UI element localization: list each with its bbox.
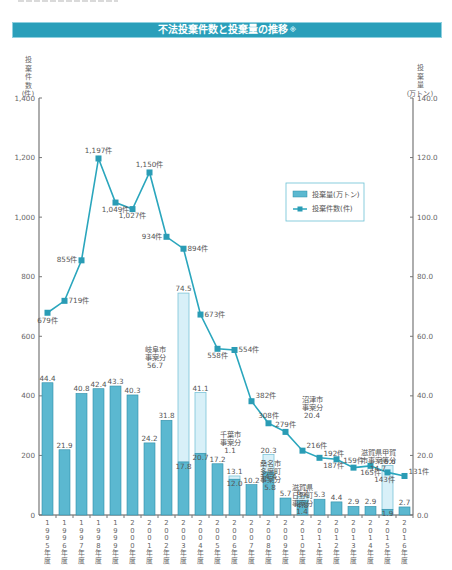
annotation-text: 5.8 (264, 483, 276, 492)
x-category-label: 度 (180, 556, 187, 565)
annotation-text: 56.7 (147, 361, 163, 370)
right-tick-label: 40.0 (417, 391, 433, 400)
bar-segment (399, 507, 410, 515)
x-category-label: 度 (316, 556, 323, 565)
bar-segment (280, 498, 291, 515)
bar-value-label: 2.7 (399, 498, 410, 507)
bar-value-label: 10.2 (243, 476, 259, 485)
bar-value-label: 5.3 (314, 490, 325, 499)
left-tick-label: 800 (21, 272, 35, 281)
right-tick-label: 20.0 (417, 451, 433, 460)
x-category-label: 度 (146, 556, 153, 565)
bar-segment (76, 393, 87, 515)
bar-value-label: 20.3 (260, 446, 276, 455)
left-tick-label: 1,200 (14, 153, 35, 162)
bar-segment (348, 506, 359, 515)
x-category-label: 度 (95, 556, 102, 565)
right-tick-label: 120.0 (417, 153, 438, 162)
right-axis-title: 棄 (417, 72, 424, 81)
cases-value-label: 679件 (37, 316, 58, 325)
cases-marker (232, 347, 238, 353)
chart-canvas: 02004006008001,0001,2001,4000.020.040.06… (0, 0, 452, 570)
cases-marker (147, 169, 153, 175)
cases-value-label: 934件 (142, 232, 163, 241)
bar-extra-segment (178, 293, 189, 462)
bar-base-value-label: 20.7 (192, 453, 208, 462)
bar-value-label: 2.9 (365, 497, 377, 506)
right-tick-label: 80.0 (417, 272, 433, 281)
bar-segment (59, 450, 70, 515)
x-category-label: 度 (214, 556, 221, 565)
cases-marker (402, 473, 408, 479)
bar-value-label: 40.8 (73, 384, 89, 393)
bar-value-label: 17.2 (209, 455, 225, 464)
left-tick-label: 1,000 (14, 213, 35, 222)
left-tick-label: 0 (30, 511, 35, 520)
cases-marker (96, 155, 102, 161)
left-axis-title: 投 (25, 55, 32, 64)
bar-value-label: 24.2 (141, 434, 157, 443)
x-category-label: 度 (282, 556, 289, 565)
cases-value-label: 1,027件 (119, 211, 147, 220)
bar-value-label: 21.9 (56, 441, 72, 450)
bar-extra-segment (195, 393, 206, 454)
x-category-label: 度 (248, 556, 255, 565)
annotation-text: 20.4 (304, 411, 320, 420)
bar-value-label: 41.1 (192, 384, 208, 393)
left-tick-label: 600 (21, 332, 35, 341)
right-axis-title: (万トン) (407, 90, 434, 98)
legend-marker-swatch (298, 207, 303, 212)
left-axis-title: 棄 (25, 64, 32, 73)
bar-segment (246, 485, 257, 515)
x-category-label: 度 (384, 556, 391, 565)
cases-value-label: 673件 (205, 310, 226, 319)
left-axis-title: (件) (22, 89, 35, 98)
x-category-label: 度 (231, 556, 238, 565)
cases-value-label: 1,150件 (136, 160, 164, 169)
annotation-text: 1.1 (224, 446, 235, 455)
right-tick-label: 60.0 (417, 332, 433, 341)
bar-segment (314, 499, 325, 515)
legend-bar-swatch (293, 191, 307, 197)
x-category-label: 度 (78, 556, 85, 565)
bar-segment (365, 506, 376, 515)
bar-value-label: 31.8 (158, 411, 174, 420)
x-category-label: 度 (129, 556, 136, 565)
cases-value-label: 143件 (374, 475, 395, 484)
bar-value-label: 2.9 (348, 497, 360, 506)
x-category-label: 度 (401, 556, 408, 565)
x-category-label: 度 (350, 556, 357, 565)
cases-value-label: 894件 (188, 244, 209, 253)
annotation-text: 1.4 (296, 507, 308, 516)
bar-segment (331, 502, 342, 515)
bar-value-label: 74.5 (175, 284, 191, 293)
bar-value-label: 13.1 (226, 467, 242, 476)
annotation-text: 14.7 (370, 464, 386, 473)
legend-line-label: 投棄件数(件) (312, 204, 353, 213)
cases-marker (164, 234, 170, 240)
cases-marker (266, 420, 272, 426)
cases-value-label: 131件 (409, 467, 430, 476)
cases-marker (249, 398, 255, 404)
bar-value-label: 4.4 (331, 493, 343, 502)
x-category-label: 度 (61, 556, 68, 565)
cases-marker (62, 298, 68, 304)
cases-marker (283, 429, 289, 435)
bar-base-value-label: 12.0 (226, 479, 242, 488)
cases-marker (317, 455, 323, 461)
bar-segment (42, 383, 53, 515)
legend-box (286, 183, 364, 221)
x-category-label: 度 (333, 556, 340, 565)
bar-base-value-label: 17.8 (175, 462, 191, 471)
cases-value-label: 855件 (57, 255, 78, 264)
cases-marker (351, 465, 357, 471)
bar-segment (144, 443, 155, 515)
cases-value-label: 558件 (207, 351, 228, 360)
legend-bar-label: 投棄量(万トン) (312, 190, 360, 199)
bar-value-label: 43.3 (107, 377, 123, 386)
left-tick-label: 400 (21, 391, 35, 400)
cases-value-label: 382件 (256, 391, 277, 400)
x-category-label: 度 (44, 556, 51, 565)
cases-value-label: 1,197件 (85, 146, 113, 155)
cases-marker (79, 257, 85, 263)
